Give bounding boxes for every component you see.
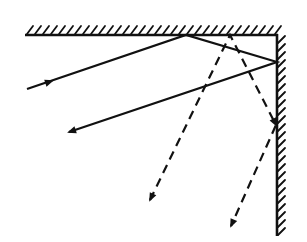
hatch-mark [67,26,73,34]
ray-path [150,35,276,226]
hatch-mark [59,26,65,34]
hatch-mark [278,36,285,43]
arrow-head-icon [270,117,277,127]
hatch-mark [51,26,57,34]
hatch-mark [203,26,209,34]
hatch-mark [278,180,285,187]
hatch-mark [147,26,153,34]
hatch-mark [278,204,285,211]
hatch-mark [251,26,257,34]
hatch-mark [123,26,129,34]
hatch-mark [235,26,241,34]
hatch-mark [278,84,285,91]
hatch-mark [27,26,33,34]
arrow-head-icon [149,192,156,202]
hatch-mark [278,44,285,51]
diagram-svg [0,0,307,242]
hatch-mark [278,228,285,235]
top-mirror [25,26,281,35]
hatch-mark [75,26,81,34]
hatch-mark [259,26,265,34]
hatch-mark [278,132,285,139]
hatch-mark [278,172,285,179]
hatch-mark [278,100,285,107]
hatch-mark [155,26,161,34]
hatch-mark [278,124,285,131]
hatch-mark [278,212,285,219]
hatch-mark [278,60,285,67]
dashed-light-ray [149,35,277,228]
hatch-mark [278,68,285,75]
hatch-mark [211,26,217,34]
hatch-mark [267,26,273,34]
hatch-mark [195,26,201,34]
hatch-mark [99,26,105,34]
hatch-mark [83,26,89,34]
hatch-mark [278,156,285,163]
hatch-mark [278,76,285,83]
hatch-mark [278,196,285,203]
arrow-head-icon [67,126,77,133]
hatch-mark [107,26,113,34]
hatch-mark [179,26,185,34]
hatch-mark [278,92,285,99]
solid-light-ray [27,35,277,133]
hatch-mark [275,26,281,34]
arrow-head-icon [230,218,237,228]
hatch-mark [171,26,177,34]
corner-reflector-diagram [0,0,307,242]
hatch-mark [278,52,285,59]
hatch-mark [131,26,137,34]
hatch-mark [278,164,285,171]
hatch-mark [163,26,169,34]
hatch-mark [278,220,285,227]
arrow-head-icon [44,80,54,87]
hatch-mark [91,26,97,34]
hatch-mark [219,26,225,34]
hatch-mark [35,26,41,34]
hatch-mark [278,188,285,195]
ray-path [27,35,277,132]
hatch-mark [278,116,285,123]
right-mirror [277,34,285,236]
hatch-mark [278,140,285,147]
hatch-mark [43,26,49,34]
hatch-mark [243,26,249,34]
hatch-mark [278,148,285,155]
hatch-mark [115,26,121,34]
hatch-mark [278,108,285,115]
hatch-mark [187,26,193,34]
hatch-mark [139,26,145,34]
